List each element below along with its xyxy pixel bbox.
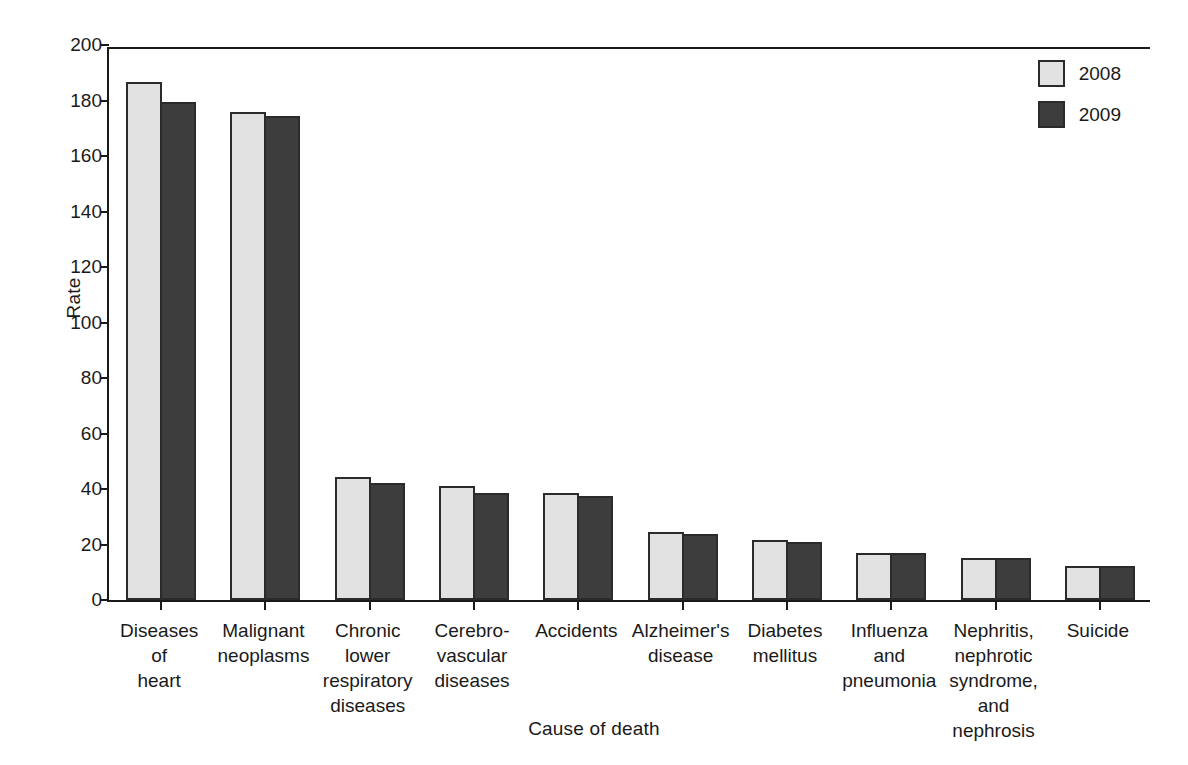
bar-2008-3: [439, 486, 475, 600]
y-axis-tick-mark: [100, 100, 109, 102]
plot-area: 020406080100120140160180200 20082009: [107, 47, 1150, 602]
bar-2008-2: [335, 477, 371, 600]
bar-2009-7: [890, 553, 926, 600]
y-axis-tick-mark: [100, 322, 109, 324]
y-axis-tick-mark: [100, 544, 109, 546]
bar-group: [422, 49, 526, 600]
bar-2009-2: [369, 483, 405, 600]
bar-group: [839, 49, 943, 600]
x-axis-tick-mark: [369, 600, 371, 610]
y-axis-tick-mark: [100, 377, 109, 379]
bar-2009-3: [473, 493, 509, 600]
bar-2008-6: [752, 540, 788, 600]
x-axis-tick-mark: [786, 600, 788, 610]
legend-label: 2009: [1079, 105, 1121, 124]
bar-2009-4: [577, 496, 613, 600]
legend-item-2009[interactable]: 2009: [1038, 101, 1121, 128]
x-axis-category-label: Suicide: [1033, 618, 1163, 643]
legend-swatch-icon: [1038, 60, 1065, 87]
bar-2009-8: [995, 558, 1031, 600]
bar-2009-9: [1099, 566, 1135, 600]
bar-group: [109, 49, 213, 600]
bar-2008-5: [648, 532, 684, 600]
bar-group: [943, 49, 1047, 600]
bar-2008-1: [230, 112, 266, 600]
legend: 20082009: [1038, 60, 1121, 128]
bar-group: [735, 49, 839, 600]
bar-group: [213, 49, 317, 600]
bar-2008-0: [126, 82, 162, 600]
x-axis-tick-mark: [1099, 600, 1101, 610]
bar-2009-5: [682, 534, 718, 600]
bar-2009-0: [160, 102, 196, 600]
bar-2009-1: [264, 116, 300, 600]
bar-group: [526, 49, 630, 600]
legend-swatch-icon: [1038, 101, 1065, 128]
bar-2008-9: [1065, 566, 1101, 600]
y-axis-tick-mark: [100, 599, 109, 601]
x-axis-category-label-line: heart: [94, 668, 224, 693]
x-axis-category-label-line: Suicide: [1033, 618, 1163, 643]
bar-2008-4: [543, 493, 579, 600]
x-axis-category-label-line: syndrome,: [928, 668, 1058, 693]
bar-chart-figure: Rate 020406080100120140160180200 2008200…: [0, 0, 1188, 765]
y-axis-tick-mark: [100, 44, 109, 46]
x-axis-tick-mark: [995, 600, 997, 610]
x-axis-tick-mark: [160, 600, 162, 610]
x-axis-category-label-line: diseases: [303, 693, 433, 718]
y-axis-tick-mark: [100, 266, 109, 268]
legend-item-2008[interactable]: 2008: [1038, 60, 1121, 87]
x-axis-tick-mark: [264, 600, 266, 610]
y-axis-tick-mark: [100, 155, 109, 157]
y-axis-tick-mark: [100, 433, 109, 435]
y-axis-tick-mark: [100, 211, 109, 213]
bar-2009-6: [786, 542, 822, 600]
x-axis-category-label-line: diseases: [407, 668, 537, 693]
x-axis-tick-mark: [473, 600, 475, 610]
x-axis-category-label-line: and: [928, 693, 1058, 718]
y-axis-tick-mark: [100, 488, 109, 490]
x-axis-tick-mark: [890, 600, 892, 610]
legend-label: 2008: [1079, 64, 1121, 83]
x-axis-tick-mark: [577, 600, 579, 610]
x-axis-title: Cause of death: [0, 718, 1188, 740]
bar-group: [318, 49, 422, 600]
x-axis-category-label-line: nephrotic: [928, 643, 1058, 668]
bar-2008-7: [856, 553, 892, 600]
bar-2008-8: [961, 558, 997, 600]
x-axis-tick-mark: [682, 600, 684, 610]
bar-group: [631, 49, 735, 600]
bar-group: [1048, 49, 1152, 600]
x-axis-category-label-line: vascular: [407, 643, 537, 668]
